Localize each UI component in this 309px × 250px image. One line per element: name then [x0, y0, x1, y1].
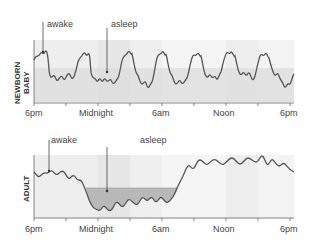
awake-pointer-dot [48, 170, 50, 172]
tick-6pm-end: 6pm [280, 224, 298, 234]
ylabel-baby: BABY [22, 71, 31, 94]
tick-midnight: Midnight [79, 224, 114, 234]
band-afternoon [226, 155, 258, 218]
x-ticks [34, 103, 290, 106]
annotation-awake: awake [47, 19, 73, 29]
sleep-zone [34, 68, 294, 102]
tick-6am: 6am [152, 224, 170, 234]
x-ticks [34, 218, 290, 221]
band-evening [34, 155, 98, 218]
asleep-pointer-dot [106, 190, 108, 192]
asleep-pointer-dot [106, 71, 108, 73]
tick-6pm-start: 6pm [25, 108, 43, 118]
band-morning [162, 155, 226, 218]
annotation-asleep: asleep [111, 19, 138, 29]
newborn-chart: awake asleep NEWBORN BABY 6pm Midnight 6… [13, 19, 298, 118]
tick-6pm-end: 6pm [280, 108, 298, 118]
annotation-awake: awake [51, 135, 77, 145]
awake-pointer-dot [42, 51, 44, 53]
tick-midnight: Midnight [79, 108, 114, 118]
band-night [98, 155, 130, 218]
band-early-morning [130, 155, 162, 218]
ylabel-adult: ADULT [22, 175, 31, 202]
adult-chart: awake asleep ADULT 6pm Midnight 6am Noon… [22, 135, 298, 234]
tick-noon: Noon [213, 224, 235, 234]
tick-noon: Noon [213, 108, 235, 118]
annotation-asleep: asleep [140, 135, 167, 145]
tick-6pm-start: 6pm [25, 224, 43, 234]
tick-6am: 6am [152, 108, 170, 118]
ylabel-newborn: NEWBORN [13, 62, 22, 104]
sleep-pattern-charts: awake asleep NEWBORN BABY 6pm Midnight 6… [0, 0, 309, 250]
